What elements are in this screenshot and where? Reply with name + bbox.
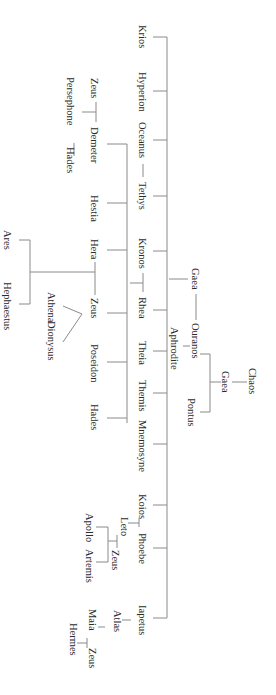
node-ouranos: Ouranos — [190, 323, 201, 359]
node-demeter: Demeter — [89, 127, 100, 164]
node-theia: Theia — [137, 341, 148, 365]
node-ares: Ares — [2, 230, 13, 250]
labels: Chaos Gaea Ouranos Pontus Gaea Aphrodite… — [2, 25, 258, 668]
node-atlas: Atlas — [112, 610, 123, 632]
node-krios: Krios — [137, 25, 148, 48]
node-dionysus: Dionysus — [46, 321, 57, 361]
bracket-ouranos-pontus — [200, 354, 210, 412]
node-oceanus: Oceanus — [137, 122, 148, 158]
node-hades: Hades — [89, 404, 100, 430]
node-hyperion: Hyperion — [137, 72, 148, 112]
node-rhea: Rhea — [137, 297, 148, 319]
node-zeus-demeter-spouse: Zeus — [89, 78, 100, 98]
node-gaea-primordial: Gaea — [220, 371, 231, 393]
bracket-apollo-artemis — [96, 527, 108, 562]
family-tree-diagram: Chaos Gaea Ouranos Pontus Gaea Aphrodite… — [0, 0, 276, 695]
node-chaos: Chaos — [247, 368, 258, 394]
node-apollo: Apollo — [84, 513, 95, 542]
node-kronos: Kronos — [137, 238, 148, 269]
node-artemis: Artemis — [84, 549, 95, 583]
node-athena: Athena — [46, 292, 57, 323]
node-zeus-leto-spouse: Zeus — [110, 550, 121, 570]
node-pontus: Pontus — [186, 398, 197, 427]
node-gaea-spouse: Gaea — [190, 268, 201, 290]
node-hermes: Hermes — [68, 623, 79, 656]
node-hephaestus: Hephaestus — [2, 282, 13, 330]
node-koios: Koios — [137, 494, 148, 519]
node-poseidon: Poseidon — [89, 344, 100, 383]
node-zeus: Zeus — [89, 298, 100, 318]
node-themis: Themis — [137, 380, 148, 412]
node-zeus-maia-spouse: Zeus — [87, 648, 98, 668]
node-phoebe: Phoebe — [137, 533, 148, 564]
node-iapetus: Iapetus — [137, 605, 148, 635]
caret-athena-dionysus — [63, 306, 82, 342]
node-aphrodite: Aphrodite — [169, 327, 180, 370]
node-hera: Hera — [89, 239, 100, 260]
node-tethys: Tethys — [137, 182, 148, 210]
node-leto: Leto — [119, 517, 130, 536]
bracket-ares-hephaestus — [19, 240, 30, 304]
node-hestia: Hestia — [89, 195, 100, 222]
node-mnemosyne: Mnemosyne — [137, 420, 148, 472]
node-hades-persephone-spouse: Hades — [65, 147, 76, 173]
node-persephone: Persephone — [65, 77, 76, 126]
node-maia: Maia — [87, 609, 98, 631]
